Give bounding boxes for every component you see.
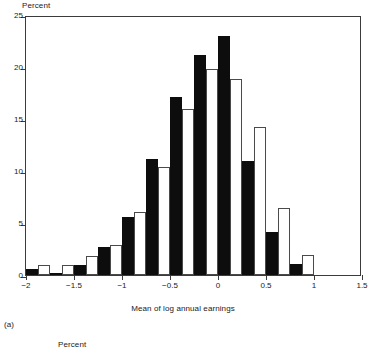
x-tick-label: 0.5 <box>260 281 271 290</box>
histogram-bar <box>158 167 170 275</box>
y-tick-label: 0 <box>19 271 23 280</box>
y-axis-title: Percent <box>22 1 50 10</box>
histogram-bar <box>290 264 302 275</box>
histogram-bar <box>62 265 74 275</box>
y-tick-label: 25 <box>14 11 23 20</box>
histogram-bar <box>194 55 206 275</box>
bar-group <box>26 17 360 275</box>
histogram-bar <box>134 212 146 275</box>
x-tick-mark <box>314 275 315 280</box>
histogram-bar <box>230 79 242 275</box>
x-tick-mark <box>170 275 171 280</box>
x-tick-label: 1.5 <box>356 281 367 290</box>
histogram-bar <box>302 255 314 275</box>
x-tick-mark <box>26 275 27 280</box>
histogram-bar <box>254 127 266 275</box>
x-tick-label: −0.5 <box>162 281 178 290</box>
x-tick-label: −1.5 <box>66 281 82 290</box>
x-tick-label: 0 <box>216 281 220 290</box>
x-axis-title: Mean of log annual earnings <box>0 304 366 313</box>
histogram-bar <box>98 247 110 275</box>
x-tick-mark <box>122 275 123 280</box>
y-tick-label: 20 <box>14 63 23 72</box>
x-tick-mark <box>266 275 267 280</box>
histogram-bar <box>122 217 134 275</box>
x-tick-label: −1 <box>117 281 126 290</box>
histogram-bar <box>242 161 254 275</box>
plot-area: 0510152025 −2−1.5−1−0.500.511.5 <box>25 16 361 276</box>
y-tick-label: 15 <box>14 115 23 124</box>
y-tick-label: 10 <box>14 167 23 176</box>
histogram-bar <box>26 269 38 275</box>
histogram-bar <box>266 232 278 275</box>
x-tick-label: −2 <box>21 281 30 290</box>
next-panel-y-axis-title: Percent <box>58 340 86 349</box>
x-tick-mark <box>362 275 363 280</box>
histogram-bar <box>50 273 62 275</box>
x-tick-mark <box>74 275 75 280</box>
histogram-bar <box>110 245 122 275</box>
x-tick-label: 1 <box>312 281 316 290</box>
histogram-bar <box>206 69 218 275</box>
histogram-bar <box>74 265 86 275</box>
histogram-bar <box>38 265 50 275</box>
histogram-bar <box>170 97 182 275</box>
histogram-bar <box>182 109 194 275</box>
panel-letter-label: (a) <box>4 320 14 329</box>
histogram-bar <box>218 36 230 275</box>
histogram-bar <box>86 256 98 275</box>
x-tick-mark <box>218 275 219 280</box>
y-tick-label: 5 <box>19 219 23 228</box>
histogram-bar <box>146 159 158 275</box>
histogram-bar <box>278 208 290 275</box>
